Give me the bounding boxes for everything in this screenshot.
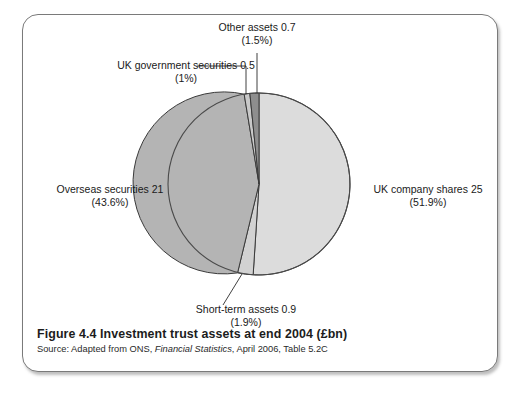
label-overseas-securities-name: Overseas securities 21 bbox=[57, 183, 164, 195]
figure-card: Other assets 0.7 (1.5%) UK government se… bbox=[22, 14, 498, 372]
label-overseas-securities-percent: (43.6%) bbox=[40, 196, 180, 209]
label-overseas-securities: Overseas securities 21 (43.6%) bbox=[40, 183, 180, 209]
figure-caption-title: Figure 4.4 Investment trust assets at en… bbox=[37, 327, 483, 341]
label-uk-government-securities-percent: (1%) bbox=[96, 72, 276, 85]
figure-caption: Figure 4.4 Investment trust assets at en… bbox=[37, 327, 483, 354]
label-uk-company-shares-percent: (51.9%) bbox=[358, 196, 498, 209]
label-uk-company-shares-name: UK company shares 25 bbox=[373, 183, 482, 195]
label-other-assets-percent: (1.5%) bbox=[197, 34, 317, 47]
figure-source-line: Source: Adapted from ONS, Financial Stat… bbox=[37, 344, 483, 354]
label-uk-government-securities: UK government securities 0.5 (1%) bbox=[96, 59, 276, 85]
figure-source-publication: Financial Statistics bbox=[155, 344, 232, 354]
label-other-assets-name: Other assets 0.7 bbox=[218, 21, 295, 33]
label-short-term-assets: Short-term assets 0.9 (1.9%) bbox=[171, 303, 321, 329]
figure-source-suffix: , April 2006, Table 5.2C bbox=[232, 344, 328, 354]
pie-slice-uk-company-shares[interactable] bbox=[253, 93, 350, 275]
leader-line-short-term-assets bbox=[223, 274, 242, 305]
label-other-assets: Other assets 0.7 (1.5%) bbox=[197, 21, 317, 47]
label-short-term-assets-name: Short-term assets 0.9 bbox=[196, 303, 296, 315]
label-uk-government-securities-name: UK government securities 0.5 bbox=[117, 59, 255, 71]
pie-chart: Other assets 0.7 (1.5%) UK government se… bbox=[23, 15, 499, 325]
label-uk-company-shares: UK company shares 25 (51.9%) bbox=[358, 183, 498, 209]
figure-source-prefix: Source: Adapted from ONS, bbox=[37, 344, 155, 354]
